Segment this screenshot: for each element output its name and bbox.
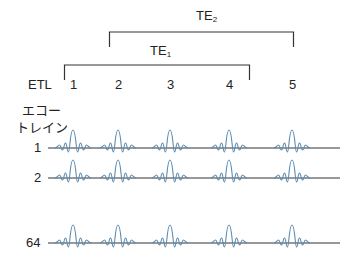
te1-bracket bbox=[65, 65, 250, 80]
echo-train-row-64 bbox=[48, 225, 340, 247]
echo-train-row-1 bbox=[48, 130, 340, 152]
te2-bracket bbox=[110, 32, 294, 47]
echo-train-row-2 bbox=[48, 160, 340, 182]
echo-train-diagram bbox=[0, 0, 349, 264]
